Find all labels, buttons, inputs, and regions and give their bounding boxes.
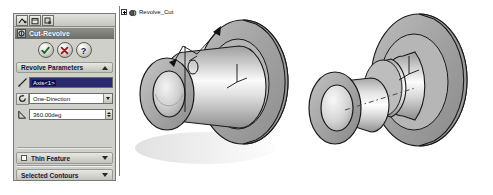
svg-text:?: ? <box>81 45 87 55</box>
cancel-button[interactable] <box>57 42 73 58</box>
configuration-manager-icon <box>44 17 52 25</box>
axis-icon <box>16 77 29 89</box>
panel-action-buttons: ? <box>14 40 115 60</box>
check-icon <box>40 45 51 56</box>
question-icon: ? <box>78 45 89 56</box>
property-manager-tabstrip <box>14 14 115 27</box>
graphics-area[interactable]: Revolve_Cut <box>119 0 493 195</box>
feature-manager-tree-tab[interactable] <box>16 15 28 26</box>
property-manager-tab[interactable] <box>29 15 41 26</box>
configuration-manager-tab[interactable] <box>42 15 54 26</box>
panel-divider <box>119 6 120 176</box>
angle-icon <box>16 109 29 121</box>
revolve-angle-input[interactable]: 360.00deg <box>29 109 113 120</box>
thin-feature-label: Thin Feature <box>31 153 70 164</box>
chevron-down-icon[interactable] <box>102 156 108 160</box>
thin-feature-header[interactable]: Thin Feature <box>16 152 113 164</box>
cut-revolve-icon <box>17 29 26 38</box>
preview-model-left[interactable] <box>125 12 305 187</box>
property-manager-icon <box>31 17 39 25</box>
chevron-down-icon[interactable] <box>102 173 108 177</box>
help-button[interactable]: ? <box>76 42 92 58</box>
spinner-icon[interactable] <box>105 110 112 119</box>
revolve-direction-value: One-Direction <box>33 96 70 102</box>
chevron-up-icon[interactable] <box>102 66 108 70</box>
revolve-angle-row: 360.00deg <box>16 108 113 121</box>
revolve-axis-row: Axis<1> <box>16 76 113 89</box>
selected-contours-label: Selected Contours <box>21 170 78 181</box>
panel-title: Cut-Revolve <box>29 28 70 39</box>
ok-button[interactable] <box>38 42 54 58</box>
divider <box>17 165 112 167</box>
selected-contours-header[interactable]: Selected Contours <box>16 169 113 181</box>
revolve-axis-input[interactable]: Axis<1> <box>29 77 113 88</box>
result-model-right[interactable] <box>287 8 490 190</box>
revolve-parameters-header[interactable]: Revolve Parameters <box>16 62 113 73</box>
revolve-parameters-label: Revolve Parameters <box>21 62 83 73</box>
revolve-axis-value: Axis<1> <box>32 80 56 86</box>
revolve-direction-row: One-Direction <box>16 92 113 105</box>
divider <box>17 147 112 149</box>
panel-title-bar: Cut-Revolve <box>15 28 114 39</box>
property-manager-panel: Cut-Revolve <box>13 13 116 181</box>
revolve-direction-select[interactable]: One-Direction <box>29 93 113 104</box>
tree-icon <box>18 17 27 25</box>
revolve-angle-value: 360.00deg <box>33 112 61 118</box>
x-icon <box>59 45 70 56</box>
thin-feature-checkbox[interactable] <box>21 155 27 161</box>
chevron-down-icon[interactable] <box>103 94 112 103</box>
revolve-direction-icon <box>16 93 29 105</box>
